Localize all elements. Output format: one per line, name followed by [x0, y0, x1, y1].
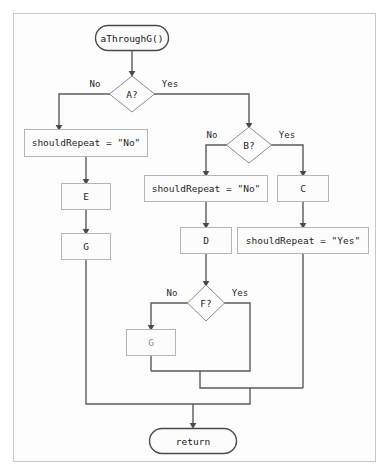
node-assign-no-left[interactable]: shouldRepeat = "No" — [25, 130, 148, 157]
assign-yes-label: shouldRepeat = "Yes" — [246, 235, 360, 246]
process-faded-label: G — [148, 337, 154, 348]
edge-label-b-no: No — [207, 130, 218, 140]
edge-label-b-yes: Yes — [279, 130, 295, 140]
node-process-g[interactable]: G — [62, 234, 111, 260]
node-assign-no-mid[interactable]: shouldRepeat = "No" — [145, 176, 268, 202]
decision-a-label: A? — [126, 89, 137, 100]
flowchart-figure: aThroughG() A? No Yes B? No Yes shouldRe… — [0, 0, 389, 475]
decision-f-label: F? — [200, 298, 211, 309]
node-process-faded[interactable]: G — [127, 330, 176, 356]
node-end[interactable]: return — [150, 429, 237, 454]
assign-no-left-label: shouldRepeat = "No" — [32, 137, 141, 148]
process-e-label: E — [83, 191, 89, 202]
node-assign-yes[interactable]: shouldRepeat = "Yes" — [238, 228, 369, 254]
decision-b-label: B? — [243, 140, 254, 151]
node-process-d[interactable]: D — [181, 228, 232, 254]
end-terminal-label: return — [176, 436, 210, 447]
start-terminal-label: aThroughG() — [101, 33, 164, 44]
edge-label-a-yes: Yes — [162, 79, 178, 89]
node-start[interactable]: aThroughG() — [96, 26, 169, 51]
process-g-label: G — [83, 241, 89, 252]
node-process-c[interactable]: C — [278, 176, 329, 202]
process-d-label: D — [203, 235, 209, 246]
edge-label-f-yes: Yes — [232, 288, 248, 298]
flowchart-canvas: aThroughG() A? No Yes B? No Yes shouldRe… — [0, 0, 389, 475]
node-process-e[interactable]: E — [62, 184, 111, 210]
edge-label-f-no: No — [167, 288, 178, 298]
edge-label-a-no: No — [90, 79, 101, 89]
process-c-label: C — [300, 183, 306, 194]
assign-no-mid-label: shouldRepeat = "No" — [152, 183, 261, 194]
